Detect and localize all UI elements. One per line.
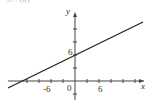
x-axis-label: x (141, 81, 145, 91)
y-tick-6: 6 (68, 47, 73, 57)
y-axis-label: y (66, 6, 70, 16)
chart-canvas (0, 0, 159, 105)
x-tick-neg6: -6 (43, 84, 51, 94)
x-tick-6: 6 (98, 84, 103, 94)
y-arrow-icon (73, 12, 77, 17)
origin-label: 0 (67, 83, 72, 93)
